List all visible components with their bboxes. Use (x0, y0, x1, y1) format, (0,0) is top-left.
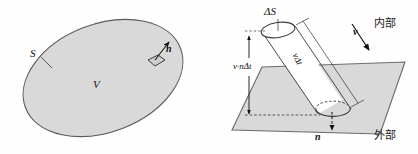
label-outside-region: 外部 (374, 130, 396, 141)
label-normal-n-right: n (315, 132, 321, 142)
label-area-element-delta-s: ΔS (264, 6, 276, 17)
label-velocity-v: v (353, 27, 357, 37)
flux-diagram-figure: S V n ΔS v·nΔt vΔt v n 内部 外部 (0, 0, 418, 154)
label-normal-n-left: n (166, 44, 172, 54)
label-height-v-dot-n-delta-t: v·nΔt (233, 62, 252, 71)
surface-ellipse (6, 0, 200, 154)
diagram-canvas (0, 0, 418, 154)
label-surface-s: S (30, 48, 36, 59)
flux-cylinder-group (232, 16, 405, 134)
closed-surface-group (6, 0, 200, 154)
label-volume-v: V (93, 79, 100, 90)
label-inside-region: 内部 (374, 18, 396, 29)
